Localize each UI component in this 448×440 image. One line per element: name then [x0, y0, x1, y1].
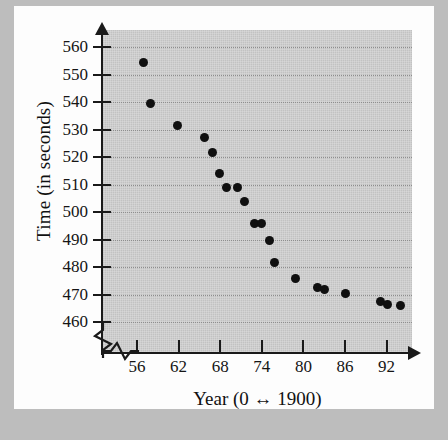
y-tick	[93, 239, 111, 241]
x-axis-title: Year (0 ↔ 1900)	[103, 388, 412, 410]
x-tick	[219, 340, 221, 354]
gridline	[103, 185, 412, 186]
x-tick	[386, 340, 388, 354]
plot-panel	[103, 30, 412, 352]
gridline	[103, 75, 412, 76]
y-tick	[93, 211, 111, 213]
y-tick	[93, 266, 111, 268]
data-point	[291, 274, 300, 283]
y-axis-title: Time (in seconds)	[33, 61, 55, 281]
y-tick-label: 460	[42, 312, 88, 332]
data-point	[341, 289, 350, 298]
y-tick	[93, 74, 111, 76]
data-point	[240, 197, 249, 206]
y-tick	[93, 294, 111, 296]
gridline	[103, 295, 412, 296]
y-axis-line	[101, 33, 103, 355]
x-tick	[302, 340, 304, 354]
data-point	[320, 285, 329, 294]
x-tick-label: 68	[200, 357, 240, 377]
x-tick	[261, 340, 263, 354]
gridline	[103, 47, 412, 48]
data-point	[396, 301, 405, 310]
gridline	[103, 157, 412, 158]
y-tick	[93, 129, 111, 131]
x-tick-label: 74	[242, 357, 282, 377]
page-background: 460470480490500510520530540550560 566268…	[0, 0, 448, 440]
y-tick	[93, 101, 111, 103]
scatter-plot-figure: 460470480490500510520530540550560 566268…	[0, 0, 448, 440]
x-tick	[178, 340, 180, 354]
x-tick-label: 62	[159, 357, 199, 377]
y-tick	[93, 46, 111, 48]
gridline	[103, 240, 412, 241]
data-point	[139, 58, 148, 67]
x-tick	[344, 340, 346, 354]
y-tick-label: 560	[42, 37, 88, 57]
x-axis-break-icon	[103, 340, 139, 362]
gridline	[103, 322, 412, 323]
panel-texture	[103, 30, 412, 352]
x-axis-line	[101, 352, 412, 354]
data-point	[233, 183, 242, 192]
data-point	[257, 219, 266, 228]
y-axis-arrow-icon	[95, 22, 109, 35]
data-point	[222, 183, 231, 192]
gridline	[103, 212, 412, 213]
y-tick-label: 470	[42, 285, 88, 305]
gridline	[103, 267, 412, 268]
data-point	[215, 169, 224, 178]
x-tick-label: 86	[325, 357, 365, 377]
y-tick	[93, 184, 111, 186]
x-tick-label: 80	[283, 357, 323, 377]
y-tick	[93, 156, 111, 158]
x-axis-arrow-icon	[408, 346, 421, 360]
gridline	[103, 130, 412, 131]
x-tick-label: 92	[367, 357, 407, 377]
